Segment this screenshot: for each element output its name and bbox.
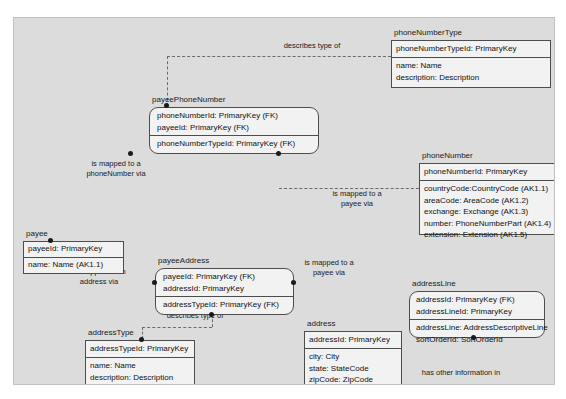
entity-attrs-payeephonenumber: phoneNumberTypeId: PrimaryKey (FK) xyxy=(157,138,315,150)
entity-phonenumbertype[interactable]: phoneNumberType phoneNumberTypeId: Prima… xyxy=(391,40,551,88)
entity-title-addressline: addressLine xyxy=(412,278,456,289)
attr-row: countryCode:CountryCode (AK1.1) xyxy=(424,183,555,195)
connector-payeephone-phonenumber-v xyxy=(14,100,15,142)
entity-keys-addresstype: addressTypeId: PrimaryKey xyxy=(90,343,191,355)
cardinality-dot-payeeaddress-bottom xyxy=(209,312,214,317)
attr-row: areaCode: AreaCode (AK1.2) xyxy=(424,195,555,207)
cardinality-dot-payeeaddress-left xyxy=(152,280,157,285)
attr-row: name: Name (AK1.1) xyxy=(28,259,120,271)
connector-payeeaddress-addresstype-dash-h xyxy=(142,327,212,328)
attr-row: description: Description xyxy=(396,72,547,84)
attr-row: addressId: PrimaryKey (FK) xyxy=(416,294,541,306)
entity-title-payeephonenumber: payeePhoneNumber xyxy=(152,94,225,105)
entity-attrs-addresstype: name: Name description: Description xyxy=(90,360,191,383)
entity-payeeaddress[interactable]: payeeAddress payeeId: PrimaryKey (FK) ad… xyxy=(155,268,294,315)
attr-row: addressLineId: PrimaryKey xyxy=(416,306,541,318)
entity-separator xyxy=(155,296,294,297)
attr-row: phoneNumberTypeId: PrimaryKey (FK) xyxy=(157,138,315,150)
attr-row: city: City xyxy=(309,351,398,363)
entity-phonenumber[interactable]: phoneNumber phoneNumberId: PrimaryKey co… xyxy=(419,163,555,235)
attr-row: payeeId: PrimaryKey xyxy=(28,243,120,255)
attr-row: name: Name xyxy=(90,360,191,372)
attr-row: addressTypeId: PrimaryKey xyxy=(90,343,191,355)
entity-title-phonenumber: phoneNumber xyxy=(422,150,473,161)
cardinality-dot-addressline-bottom xyxy=(471,335,476,340)
cardinality-dot-payeeaddress-right xyxy=(291,280,296,285)
entity-separator xyxy=(419,180,555,181)
attr-row: phoneNumberId: PrimaryKey xyxy=(424,166,555,178)
entity-keys-phonenumber: phoneNumberId: PrimaryKey xyxy=(424,166,555,178)
entity-separator xyxy=(149,135,319,136)
entity-keys-address: addressId: PrimaryKey xyxy=(309,334,398,346)
connector-address-addressline-v xyxy=(14,191,15,231)
cardinality-dot-payeephone-bl xyxy=(128,151,133,156)
entity-addresstype[interactable]: addressType addressTypeId: PrimaryKey na… xyxy=(85,340,195,385)
entity-keys-payeephonenumber: phoneNumberId: PrimaryKey (FK) payeeId: … xyxy=(157,110,315,133)
entity-title-payeeaddress: payeeAddress xyxy=(158,255,209,266)
attr-row: number: PhoneNumberPart (AK1.4) xyxy=(424,218,555,230)
diagram-stage: describes type of is mapped to a phoneNu… xyxy=(0,0,566,399)
entity-attrs-phonenumber: countryCode:CountryCode (AK1.1) areaCode… xyxy=(424,183,555,241)
connector-address-addressline-h xyxy=(14,190,84,191)
entity-title-address: address xyxy=(307,318,335,329)
connector-payeephone-payee-v xyxy=(14,18,15,64)
relationship-label-mapped-to-payee-phone: is mapped to a payee via xyxy=(302,189,412,208)
entity-attrs-payee: name: Name (AK1.1) xyxy=(28,259,120,271)
attr-row: addressId: PrimaryKey xyxy=(163,283,290,295)
attr-row: zipCode: ZipCode xyxy=(309,374,398,385)
attr-row: payeeId: PrimaryKey (FK) xyxy=(163,271,290,283)
entity-keys-payeeaddress: payeeId: PrimaryKey (FK) addressId: Prim… xyxy=(163,271,290,294)
entity-keys-addressline: addressId: PrimaryKey (FK) addressLineId… xyxy=(416,294,541,317)
cardinality-dot-addresstype-top xyxy=(139,337,144,342)
entity-separator xyxy=(85,357,195,358)
entity-title-phonenumbertype: phoneNumberType xyxy=(394,27,462,38)
entity-attrs-address: city: City state: StateCode zipCode: Zip… xyxy=(309,351,398,385)
attr-row: addressId: PrimaryKey xyxy=(309,334,398,346)
entity-separator xyxy=(391,57,551,58)
connector-phonenumbertype-dash-h xyxy=(167,56,391,57)
entity-separator xyxy=(23,257,124,258)
attr-row: payeeId: PrimaryKey (FK) xyxy=(157,122,315,134)
attr-row: name: Name xyxy=(396,60,547,72)
cardinality-dot-payeephone-br xyxy=(276,151,281,156)
entity-attrs-addressline: addressLine: AddressDescriptiveLine sort… xyxy=(416,322,541,345)
entity-keys-payee: payeeId: PrimaryKey xyxy=(28,243,120,255)
entity-separator xyxy=(409,319,545,320)
attr-row: phoneNumberTypeId: PrimaryKey xyxy=(396,43,547,55)
entity-title-payee: payee xyxy=(26,228,48,239)
attr-row: state: StateCode xyxy=(309,363,398,375)
relationship-label-describes-type-of-phone: describes type of xyxy=(257,41,367,51)
entity-payeephonenumber[interactable]: payeePhoneNumber phoneNumberId: PrimaryK… xyxy=(149,107,319,154)
entity-payee[interactable]: payee payeeId: PrimaryKey name: Name (AK… xyxy=(23,241,124,274)
connector-payeeaddress-address-h xyxy=(14,143,36,144)
attr-row: sortOrderId: SortOrderId xyxy=(416,334,541,346)
cardinality-dot-payee-top xyxy=(48,238,53,243)
connector-payeephone-payee-h xyxy=(14,64,95,65)
entity-attrs-payeeaddress: addressTypeId: PrimaryKey (FK) xyxy=(163,299,290,311)
attr-row: addressLine: AddressDescriptiveLine xyxy=(416,322,541,334)
entity-title-addresstype: addressType xyxy=(88,327,134,338)
relationship-label-has-other-information-in: has other information in xyxy=(406,368,516,378)
entity-attrs-phonenumbertype: name: Name description: Description xyxy=(396,60,547,83)
entity-addressline[interactable]: addressLine addressId: PrimaryKey (FK) a… xyxy=(409,291,545,338)
entity-keys-phonenumbertype: phoneNumberTypeId: PrimaryKey xyxy=(396,43,547,55)
entity-address[interactable]: address addressId: PrimaryKey city: City… xyxy=(304,331,402,385)
connector-payeeaddress-address-v xyxy=(14,144,15,190)
attr-row: phoneNumberId: PrimaryKey (FK) xyxy=(157,110,315,122)
connector-payee-v xyxy=(14,65,15,100)
cardinality-dot-payeephone-top xyxy=(164,103,169,108)
relationship-label-mapped-to-phonenumber: is mapped to a phoneNumber via xyxy=(56,159,176,178)
attr-row: extension: Extension (AK1.5) xyxy=(424,229,555,241)
relationship-label-mapped-to-payee-addr: is mapped to a payee via xyxy=(282,258,376,277)
diagram-canvas: describes type of is mapped to a phoneNu… xyxy=(13,17,555,385)
attr-row: addressTypeId: PrimaryKey (FK) xyxy=(163,299,290,311)
attr-row: description: Description xyxy=(90,372,191,384)
entity-separator xyxy=(304,348,402,349)
attr-row: exchange: Exchange (AK1.3) xyxy=(424,206,555,218)
